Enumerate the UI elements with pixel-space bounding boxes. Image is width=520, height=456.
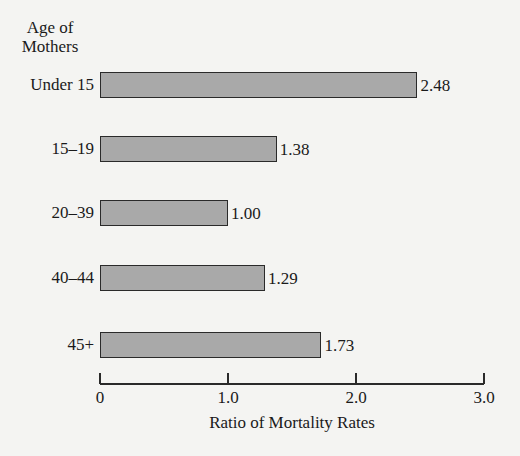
x-tick — [355, 373, 357, 384]
value-label: 1.73 — [324, 336, 354, 356]
bar — [100, 136, 277, 162]
category-label: 40–44 — [52, 268, 95, 288]
bar — [100, 200, 228, 226]
category-label: Under 15 — [30, 75, 94, 95]
x-tick — [483, 373, 485, 384]
y-axis-title: Age of Mothers — [8, 18, 92, 56]
bar — [100, 332, 321, 358]
value-label: 2.48 — [420, 76, 450, 96]
category-label: 15–19 — [52, 139, 95, 159]
value-label: 1.38 — [280, 140, 310, 160]
x-axis-line — [100, 383, 484, 385]
x-tick-label: 2.0 — [345, 388, 366, 408]
bar — [100, 265, 265, 291]
value-label: 1.29 — [268, 269, 298, 289]
x-tick — [227, 373, 229, 384]
x-tick-label: 0 — [96, 388, 105, 408]
y-axis-title-line1: Age of — [8, 18, 92, 37]
x-tick-label: 1.0 — [217, 388, 238, 408]
x-axis-title: Ratio of Mortality Rates — [100, 413, 484, 433]
category-label: 20–39 — [52, 203, 95, 223]
value-label: 1.00 — [231, 204, 261, 224]
category-label: 45+ — [67, 335, 94, 355]
x-tick-label: 3.0 — [473, 388, 494, 408]
y-axis-title-line2: Mothers — [8, 37, 92, 56]
bar — [100, 72, 417, 98]
x-tick — [99, 373, 101, 384]
